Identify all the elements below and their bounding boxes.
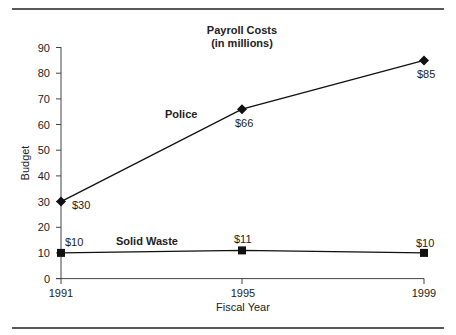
police-line [61,60,424,201]
police-value-label: $85 [417,68,435,80]
diamond-marker [56,197,66,207]
police-value-label: $66 [235,117,253,129]
police-markers [56,55,429,206]
y-tick-label: 20 [38,221,50,233]
solid-waste-series-label: Solid Waste [116,235,178,247]
y-tick-label: 10 [38,247,50,259]
police-value-labels: $30 $66 $85 [72,68,435,211]
police-value-label: $30 [72,199,90,211]
y-tick-label: 40 [38,170,50,182]
y-tick-label: 90 [38,42,50,54]
y-tick-labels: 90 80 70 60 50 40 30 20 10 0 [38,42,50,285]
square-marker [57,249,65,257]
y-tick-label: 80 [38,67,50,79]
solid-waste-value-label: $10 [65,236,83,248]
solid-waste-value-label: $10 [416,237,434,249]
payroll-chart: Payroll Costs (in millions) 90 80 70 60 … [0,0,456,335]
x-tick-labels: 1991 1995 1999 [49,287,436,299]
solid-waste-value-label: $11 [234,233,252,245]
y-tick-label: 50 [38,144,50,156]
y-tick-label: 70 [38,93,50,105]
diamond-marker [237,104,247,114]
square-marker [238,246,246,254]
y-axis-label: Budget [19,146,31,181]
square-marker [420,249,428,257]
x-tick-label: 1991 [49,287,73,299]
x-ticks [61,279,424,284]
y-ticks [56,48,61,279]
chart-subtitle: (in millions) [211,37,273,49]
x-tick-label: 1999 [412,287,436,299]
x-tick-label: 1995 [231,287,255,299]
chart-title: Payroll Costs [207,24,277,36]
y-tick-label: 0 [44,273,50,285]
x-axis-label: Fiscal Year [216,301,270,313]
diamond-marker [419,55,429,65]
police-series-label: Police [165,108,197,120]
y-tick-label: 30 [38,196,50,208]
y-tick-label: 60 [38,119,50,131]
